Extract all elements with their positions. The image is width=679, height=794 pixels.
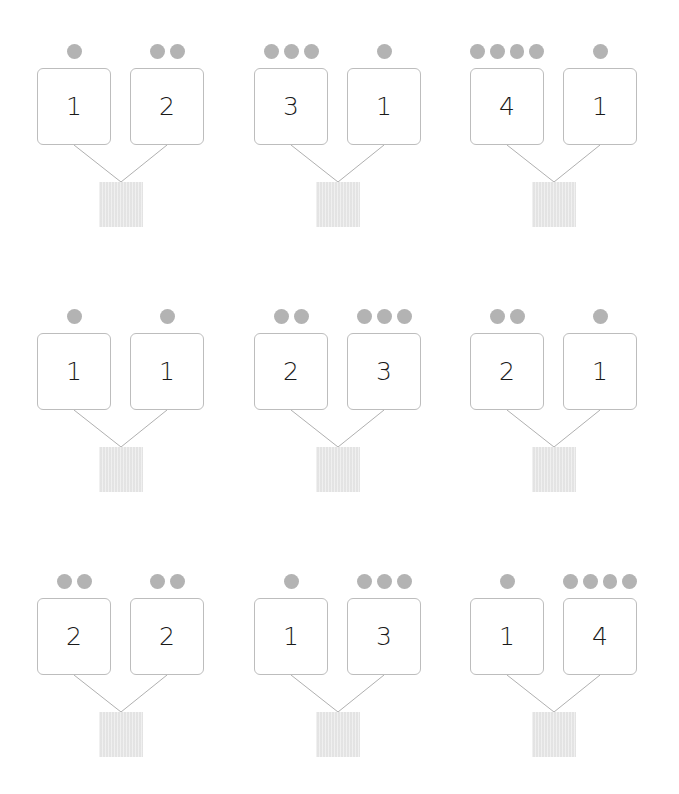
right-dot-counters [563, 309, 637, 324]
right-addend-box: 1 [563, 333, 637, 410]
right-addend-value: 2 [159, 94, 175, 119]
number-bond-group: 3 1 [254, 68, 424, 233]
counter-dot-icon [274, 309, 289, 324]
right-addend-box: 1 [347, 68, 421, 145]
counter-dot-icon [593, 309, 608, 324]
left-dot-counters [470, 574, 544, 589]
left-dot-counters [37, 574, 111, 589]
sum-answer-box[interactable] [99, 712, 143, 757]
left-dot-counters [37, 309, 111, 324]
counter-dot-icon [377, 309, 392, 324]
right-addend-box: 1 [130, 333, 204, 410]
counter-dot-icon [377, 44, 392, 59]
left-addend-box: 1 [37, 333, 111, 410]
counter-dot-icon [170, 574, 185, 589]
counter-dot-icon [397, 574, 412, 589]
left-addend-value: 1 [66, 359, 82, 384]
counter-dot-icon [470, 44, 485, 59]
sum-answer-box[interactable] [532, 182, 576, 227]
left-dot-counters [254, 309, 328, 324]
counter-dot-icon [490, 44, 505, 59]
sum-answer-box[interactable] [99, 447, 143, 492]
sum-answer-box[interactable] [316, 182, 360, 227]
right-addend-value: 1 [592, 94, 608, 119]
counter-dot-icon [593, 44, 608, 59]
left-addend-box: 3 [254, 68, 328, 145]
counter-dot-icon [284, 44, 299, 59]
counter-dot-icon [357, 574, 372, 589]
counter-dot-icon [622, 574, 637, 589]
left-addend-box: 2 [470, 333, 544, 410]
counter-dot-icon [510, 309, 525, 324]
right-dot-counters [347, 574, 421, 589]
right-addend-value: 1 [376, 94, 392, 119]
counter-dot-icon [67, 44, 82, 59]
counter-dot-icon [77, 574, 92, 589]
right-addend-value: 3 [376, 624, 392, 649]
left-addend-value: 1 [66, 94, 82, 119]
right-dot-counters [130, 44, 204, 59]
right-dot-counters [347, 44, 421, 59]
left-addend-value: 2 [283, 359, 299, 384]
right-addend-value: 4 [592, 624, 608, 649]
left-addend-box: 1 [37, 68, 111, 145]
counter-dot-icon [529, 44, 544, 59]
counter-dot-icon [563, 574, 578, 589]
counter-dot-icon [490, 309, 505, 324]
sum-answer-box[interactable] [532, 712, 576, 757]
left-addend-value: 3 [283, 94, 299, 119]
sum-answer-box[interactable] [532, 447, 576, 492]
right-dot-counters [563, 574, 637, 589]
counter-dot-icon [67, 309, 82, 324]
right-addend-value: 3 [376, 359, 392, 384]
right-addend-value: 1 [159, 359, 175, 384]
left-addend-value: 1 [499, 624, 515, 649]
counter-dot-icon [377, 574, 392, 589]
left-addend-value: 4 [499, 94, 515, 119]
number-bond-group: 1 4 [470, 598, 640, 763]
left-addend-box: 2 [37, 598, 111, 675]
counter-dot-icon [510, 44, 525, 59]
left-addend-value: 2 [66, 624, 82, 649]
left-addend-value: 1 [283, 624, 299, 649]
left-addend-box: 2 [254, 333, 328, 410]
number-bond-group: 1 3 [254, 598, 424, 763]
counter-dot-icon [294, 309, 309, 324]
counter-dot-icon [304, 44, 319, 59]
right-addend-box: 2 [130, 598, 204, 675]
right-dot-counters [563, 44, 637, 59]
counter-dot-icon [500, 574, 515, 589]
counter-dot-icon [150, 574, 165, 589]
sum-answer-box[interactable] [99, 182, 143, 227]
counter-dot-icon [603, 574, 618, 589]
left-dot-counters [254, 574, 328, 589]
counter-dot-icon [284, 574, 299, 589]
right-addend-box: 1 [563, 68, 637, 145]
number-bond-group: 1 2 [37, 68, 207, 233]
right-dot-counters [347, 309, 421, 324]
right-addend-box: 4 [563, 598, 637, 675]
left-addend-box: 4 [470, 68, 544, 145]
right-dot-counters [130, 309, 204, 324]
sum-answer-box[interactable] [316, 712, 360, 757]
left-dot-counters [254, 44, 328, 59]
counter-dot-icon [150, 44, 165, 59]
number-bond-group: 2 1 [470, 333, 640, 498]
counter-dot-icon [397, 309, 412, 324]
right-addend-box: 2 [130, 68, 204, 145]
left-dot-counters [37, 44, 111, 59]
sum-answer-box[interactable] [316, 447, 360, 492]
counter-dot-icon [57, 574, 72, 589]
left-dot-counters [470, 44, 544, 59]
number-bond-group: 1 1 [37, 333, 207, 498]
number-bond-group: 2 3 [254, 333, 424, 498]
right-addend-value: 1 [592, 359, 608, 384]
counter-dot-icon [170, 44, 185, 59]
counter-dot-icon [160, 309, 175, 324]
left-dot-counters [470, 309, 544, 324]
counter-dot-icon [357, 309, 372, 324]
right-addend-box: 3 [347, 598, 421, 675]
counter-dot-icon [264, 44, 279, 59]
number-bond-group: 2 2 [37, 598, 207, 763]
right-addend-value: 2 [159, 624, 175, 649]
